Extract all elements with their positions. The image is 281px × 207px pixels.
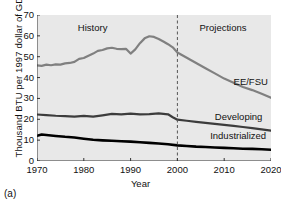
series-label-ee-fsu: EE/FSU <box>234 76 268 87</box>
figure-panel: Thousand BTU per 1997 dollar of GDP 0102… <box>0 0 281 207</box>
x-tick-2020: 2020 <box>255 164 281 175</box>
history-annotation: History <box>78 22 108 33</box>
x-tick-2010: 2010 <box>208 164 240 175</box>
y-tick-40: 40 <box>23 73 34 82</box>
plot-area: HistoryProjections EE/FSUDevelopingIndus… <box>37 15 271 161</box>
series-label-industrialized: Industrialized <box>210 130 266 141</box>
y-tick-20: 20 <box>23 114 34 123</box>
x-tick-1970: 1970 <box>21 164 53 175</box>
x-tick-1990: 1990 <box>115 164 147 175</box>
figure-caption: (a) <box>4 188 16 199</box>
y-tick-10: 10 <box>23 135 34 144</box>
y-tick-50: 50 <box>23 52 34 61</box>
x-tick-2000: 2000 <box>161 164 193 175</box>
x-axis-tick-labels: 197019801990200020102020 <box>0 164 281 178</box>
x-tick-1980: 1980 <box>68 164 100 175</box>
projections-annotation: Projections <box>200 22 247 33</box>
series-label-developing: Developing <box>215 111 263 122</box>
y-tick-30: 30 <box>23 93 34 102</box>
y-tick-60: 60 <box>23 31 34 40</box>
x-axis-label: Year <box>0 178 281 189</box>
y-tick-70: 70 <box>23 10 34 19</box>
